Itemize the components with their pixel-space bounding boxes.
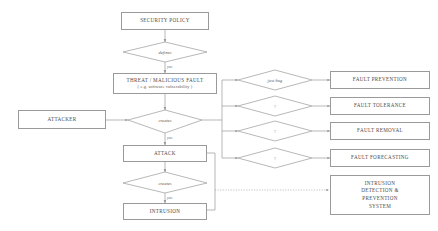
- node-fault-forecasting: FAULT FORECASTING: [330, 149, 430, 167]
- fault-prevention-label: FAULT PREVENTION: [353, 76, 407, 84]
- node-fault-tolerance: FAULT TOLERANCE: [330, 97, 430, 115]
- fault-forecasting-label: FAULT FORECASTING: [351, 154, 409, 162]
- branch-decision-4-label: ?: [255, 156, 295, 161]
- idps-label-line3: PREVENTION: [362, 195, 397, 203]
- diagram-canvas: SECURITY POLICY defines yes THREAT / MAL…: [0, 0, 438, 231]
- idps-label-line2: DETECTION &: [361, 187, 399, 195]
- node-fault-prevention: FAULT PREVENTION: [330, 71, 430, 89]
- branch-decision-1-label: just bug: [255, 78, 295, 83]
- idps-label-line1: INTRUSION: [365, 180, 396, 188]
- branch-decision-3-label: ?: [255, 129, 295, 134]
- branch-decision-2-label: ?: [255, 104, 295, 109]
- node-idps: INTRUSION DETECTION & PREVENTION SYSTEM: [330, 175, 430, 215]
- node-fault-removal: FAULT REMOVAL: [330, 122, 430, 140]
- fault-removal-label: FAULT REMOVAL: [357, 127, 403, 135]
- idps-label-line4: SYSTEM: [369, 203, 391, 211]
- fault-tolerance-label: FAULT TOLERANCE: [354, 102, 406, 110]
